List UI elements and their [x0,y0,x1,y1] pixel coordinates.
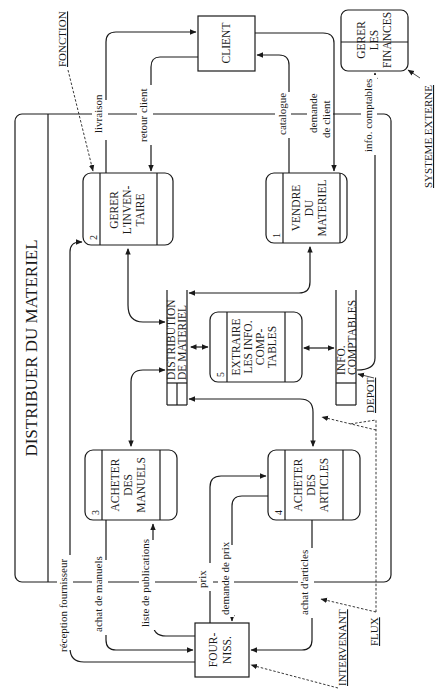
flow-demande-prix: demande de prix [218,496,268,621]
flow-manuels-distribution [131,370,165,446]
svg-text:COMPTABLES: COMPTABLES [346,300,358,375]
svg-text:GERER: GERER [355,21,367,59]
svg-text:CLIENT: CLIENT [220,23,232,64]
svg-text:VENDRE: VENDRE [290,185,302,232]
svg-text:COMP-: COMP- [254,329,266,366]
flow-achat-articles: achat d'articles [251,520,314,650]
svg-text:DU: DU [303,199,315,216]
store-info-comptables[interactable]: INFO. COMPTABLES [335,290,358,405]
svg-text:TABLES: TABLES [266,326,278,369]
svg-text:DES: DES [122,474,134,496]
svg-text:EXTRAIRE: EXTRAIRE [230,319,242,376]
svg-text:catalogue: catalogue [276,93,288,135]
svg-text:ACHETER: ACHETER [292,458,304,511]
svg-text:LES: LES [368,30,380,50]
process-1-vendre-materiel[interactable]: 1 VENDRE DU MATERIEL [266,173,347,243]
svg-text:DEPOT: DEPOT [364,377,376,413]
external-system-finances[interactable]: GERER LES FINANCES [341,10,408,71]
flow-demande-client: demande de client [255,33,334,171]
svg-text:achat d'articles: achat d'articles [298,550,310,615]
svg-text:SYSTEME EXTERNE: SYSTEME EXTERNE [422,85,434,188]
entity-client[interactable]: CLIENT [198,16,255,71]
svg-text:FOUR-: FOUR- [207,633,219,668]
svg-text:achat de manuels: achat de manuels [92,556,104,632]
process-3-acheter-manuels[interactable]: 3 ACHETER DES MANUELS [85,450,177,520]
svg-text:prix: prix [196,570,208,588]
system-title: DISTRIBUER DU MATERIEL [22,239,41,456]
data-flow-diagram: DISTRIBUER DU MATERIEL CLIENT GERER LES … [0,0,444,693]
process-2-gerer-inventaire[interactable]: 2 GERER L'INVEN- TAIRE [83,173,173,245]
entity-fournisseur[interactable]: FOUR- NISS. [195,623,249,677]
svg-text:retour client: retour client [137,89,149,142]
svg-text:1: 1 [271,233,282,238]
svg-text:FLUX: FLUX [368,617,380,646]
legend-intervenant: INTERVENANT [251,609,348,688]
svg-text:FINANCES: FINANCES [381,12,393,68]
svg-text:MATERIEL: MATERIEL [316,180,328,237]
svg-text:info. comptables: info. comptables [362,79,374,152]
process-5-extraire-info-comptables[interactable]: 5 EXTRAIRE LES INFO. COMP- TABLES [210,312,302,382]
svg-text:DES: DES [305,474,317,496]
svg-text:réception fournisseur: réception fournisseur [57,559,69,652]
svg-text:FONCTION: FONCTION [56,11,68,67]
svg-text:de client: de client [320,100,332,138]
svg-text:INTERVENANT: INTERVENANT [336,609,348,686]
svg-text:MANUELS: MANUELS [135,457,147,513]
svg-text:GERER: GERER [108,191,120,229]
svg-text:LES INFO.: LES INFO. [242,320,254,373]
process-4-acheter-articles[interactable]: 4 ACHETER DES ARTICLES [268,450,360,520]
svg-text:4: 4 [273,510,284,515]
svg-text:liste de publications: liste de publications [139,539,151,627]
svg-text:demande: demande [307,93,319,133]
legend-fonction: FONCTION [56,11,93,171]
svg-text:demande de prix: demande de prix [219,541,231,615]
store-distribution-materiel[interactable]: DISTRIBUTION DE MATERIEL [165,290,188,405]
svg-text:TAIRE: TAIRE [134,194,146,227]
legend-systeme-externe: SYSTEME EXTERNE [408,70,434,188]
svg-text:NISS.: NISS. [221,636,233,664]
legend-depot: DEPOT [358,374,376,413]
svg-text:DE MATERIEL: DE MATERIEL [176,305,188,380]
svg-text:ACHETER: ACHETER [109,458,121,511]
flow-liste-publications: liste de publications [139,524,195,636]
svg-text:ARTICLES: ARTICLES [318,458,330,512]
flow-articles-distribution [189,399,313,446]
svg-text:3: 3 [90,510,101,515]
flow-inventaire-distribution [128,249,165,322]
flow-info-comptables: info. comptables [357,73,377,370]
svg-text:5: 5 [215,372,226,377]
flow-vendre-distribution [189,247,310,293]
svg-text:L'INVEN-: L'INVEN- [121,185,133,234]
svg-text:livraison: livraison [92,94,104,133]
svg-text:2: 2 [88,235,99,240]
